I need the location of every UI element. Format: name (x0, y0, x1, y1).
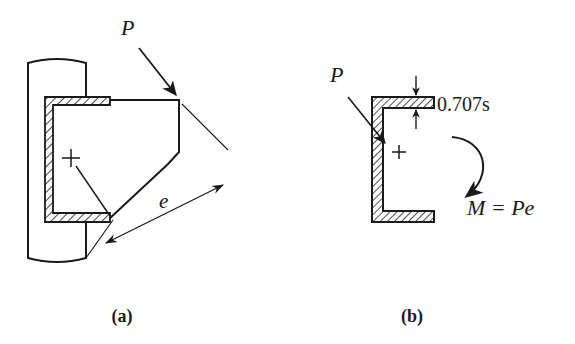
eccentricity-label: e (159, 189, 168, 213)
moment-label: M = Pe (466, 195, 535, 220)
figure-root: P e (a) P (0, 0, 575, 344)
caption-panel-a: (a) (112, 306, 133, 327)
engineering-figure: P e (a) P (0, 0, 575, 344)
load-label-a: P (120, 15, 134, 40)
caption-panel-b: (b) (401, 306, 423, 327)
load-label-b: P (329, 62, 343, 87)
throat-thickness-label: 0.707s (437, 93, 490, 115)
